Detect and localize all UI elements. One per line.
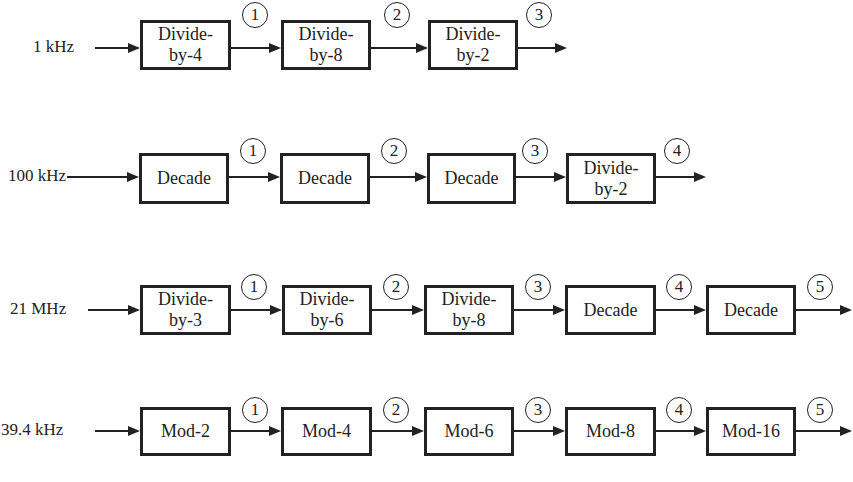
counter-block: Mod-4 — [281, 407, 372, 456]
signal-line — [796, 430, 841, 432]
block-label-line2: by-3 — [169, 310, 202, 331]
node-marker: 1 — [242, 397, 268, 423]
arrow-right-icon — [694, 172, 706, 182]
counter-block: Divide- by-2 — [428, 20, 518, 70]
counter-block: Decade — [706, 285, 796, 335]
block-label-line1: Decade — [298, 168, 352, 189]
block-label-line1: Decade — [724, 300, 778, 321]
arrow-right-icon — [553, 426, 565, 436]
block-label-line2: by-8 — [453, 310, 486, 331]
signal-line — [656, 176, 696, 178]
node-marker: 3 — [525, 397, 551, 423]
block-label-line1: Divide- — [442, 289, 497, 310]
node-marker: 3 — [525, 274, 551, 300]
arrow-right-icon — [694, 305, 706, 315]
block-label-line1: Divide- — [300, 289, 355, 310]
input-frequency-label: 21 MHz — [10, 299, 66, 319]
signal-line — [370, 176, 416, 178]
block-label-line1: Decade — [157, 168, 211, 189]
counter-block: Mod-2 — [140, 407, 231, 456]
signal-line — [67, 176, 129, 178]
counter-block: Mod-6 — [424, 407, 514, 456]
signal-line — [518, 47, 558, 49]
block-label-line2: by-2 — [457, 45, 490, 66]
block-label-line1: Divide- — [584, 158, 639, 179]
input-frequency-label: 1 kHz — [33, 37, 74, 57]
input-frequency-label: 100 kHz — [8, 166, 66, 186]
node-marker: 2 — [381, 138, 407, 164]
arrow-right-icon — [694, 426, 706, 436]
signal-line — [371, 47, 417, 49]
counter-block: Mod-8 — [565, 407, 656, 456]
signal-line — [514, 309, 555, 311]
signal-line — [372, 430, 414, 432]
block-label-line2: by-8 — [310, 45, 343, 66]
counter-block: Decade — [139, 153, 229, 204]
block-label-line1: Divide- — [446, 24, 501, 45]
arrow-right-icon — [269, 43, 281, 53]
signal-line — [95, 430, 130, 432]
counter-block: Divide- by-2 — [566, 153, 656, 204]
counter-block: Decade — [280, 153, 370, 204]
counter-block: Divide- by-4 — [140, 20, 231, 70]
signal-line — [656, 430, 696, 432]
signal-line — [231, 430, 271, 432]
arrow-right-icon — [128, 426, 140, 436]
counter-block: Divide- by-3 — [140, 285, 231, 335]
signal-line — [796, 309, 841, 311]
block-label-line1: Divide- — [299, 24, 354, 45]
arrow-right-icon — [128, 43, 140, 53]
input-frequency-label: 39.4 kHz — [1, 420, 63, 440]
arrow-right-icon — [416, 43, 428, 53]
signal-line — [231, 47, 271, 49]
node-marker: 1 — [242, 2, 268, 28]
arrow-right-icon — [412, 426, 424, 436]
arrow-right-icon — [415, 172, 427, 182]
counter-chain-row-1: 1 kHz Divide- by-4 1 Divide- by-8 2 Divi… — [0, 0, 853, 90]
block-label-line1: Mod-6 — [445, 421, 494, 442]
counter-block: Decade — [427, 153, 516, 204]
arrow-right-icon — [270, 305, 282, 315]
block-label-line1: Divide- — [158, 289, 213, 310]
block-label-line2: by-4 — [169, 45, 202, 66]
arrow-right-icon — [840, 305, 852, 315]
arrow-right-icon — [127, 172, 139, 182]
signal-line — [231, 309, 272, 311]
node-marker: 5 — [807, 397, 833, 423]
signal-line — [372, 309, 414, 311]
node-marker: 1 — [240, 138, 266, 164]
node-marker: 2 — [384, 2, 410, 28]
signal-line — [514, 430, 555, 432]
arrow-right-icon — [268, 172, 280, 182]
arrow-right-icon — [412, 305, 424, 315]
arrow-right-icon — [840, 426, 852, 436]
node-marker: 3 — [526, 2, 552, 28]
node-marker: 2 — [383, 397, 409, 423]
counter-block: Decade — [565, 285, 656, 335]
node-marker: 2 — [383, 274, 409, 300]
block-label-line2: by-6 — [311, 310, 344, 331]
block-label-line1: Divide- — [158, 24, 213, 45]
arrow-right-icon — [553, 305, 565, 315]
node-marker: 4 — [666, 274, 692, 300]
node-marker: 4 — [666, 397, 692, 423]
signal-line — [229, 176, 270, 178]
node-marker: 1 — [241, 274, 267, 300]
counter-block: Divide- by-8 — [424, 285, 514, 335]
counter-block: Mod-16 — [706, 407, 796, 456]
block-label-line1: Mod-8 — [586, 421, 635, 442]
arrow-right-icon — [128, 305, 140, 315]
block-label-line1: Decade — [584, 300, 638, 321]
node-marker: 3 — [522, 138, 548, 164]
signal-line — [95, 47, 130, 49]
arrow-right-icon — [555, 43, 567, 53]
block-label-line2: by-2 — [595, 179, 628, 200]
signal-line — [88, 309, 130, 311]
block-label-line1: Decade — [445, 168, 499, 189]
signal-line — [656, 309, 696, 311]
node-marker: 4 — [664, 138, 690, 164]
arrow-right-icon — [554, 172, 566, 182]
arrow-right-icon — [269, 426, 281, 436]
block-label-line1: Mod-2 — [161, 421, 210, 442]
block-label-line1: Mod-16 — [722, 421, 780, 442]
